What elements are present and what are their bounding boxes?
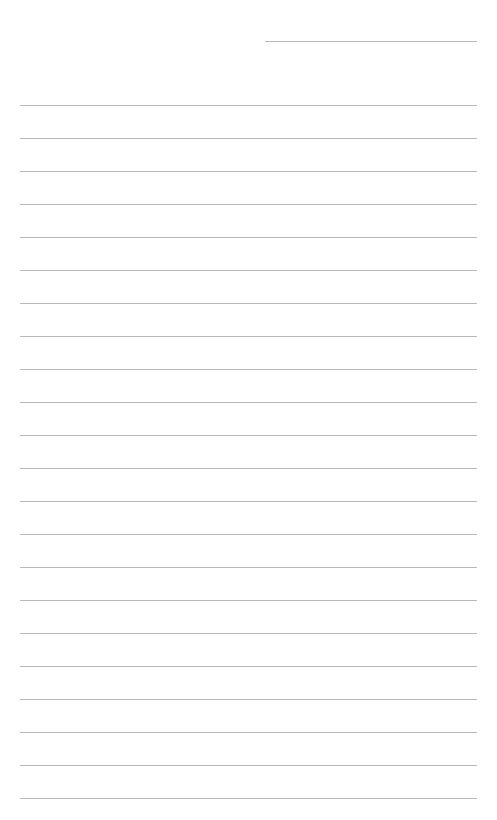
ruled-line [20, 633, 477, 634]
ruled-line [20, 138, 477, 139]
ruled-line [20, 732, 477, 733]
ruled-line [20, 105, 477, 106]
ruled-line [20, 567, 477, 568]
ruled-line [20, 303, 477, 304]
ruled-line [20, 600, 477, 601]
ruled-line [20, 666, 477, 667]
ruled-line [20, 435, 477, 436]
header-line [265, 41, 477, 42]
ruled-line [20, 765, 477, 766]
ruled-line [20, 270, 477, 271]
ruled-line [20, 699, 477, 700]
ruled-line [20, 501, 477, 502]
ruled-line [20, 237, 477, 238]
ruled-line [20, 336, 477, 337]
ruled-line [20, 171, 477, 172]
ruled-line [20, 534, 477, 535]
ruled-line [20, 369, 477, 370]
ruled-line [20, 204, 477, 205]
ruled-line [20, 402, 477, 403]
ruled-line [20, 798, 477, 799]
ruled-line [20, 468, 477, 469]
